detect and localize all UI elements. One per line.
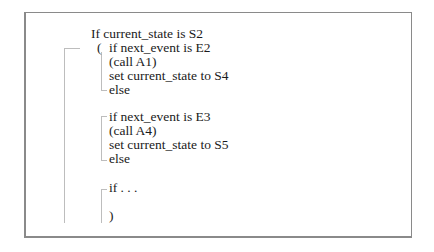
inner-bracket-2-bottom — [101, 160, 107, 161]
inner-bracket-3-vertical — [101, 189, 102, 223]
inner-bracket-2-vertical — [101, 116, 102, 161]
close-paren: ) — [109, 209, 114, 223]
else-1: else — [109, 83, 130, 97]
condition-event-e2: if next_event is E2 — [109, 41, 211, 55]
diagram-frame — [24, 12, 412, 238]
condition-ellipsis: if . . . — [109, 181, 138, 195]
condition-current-state-s2: If current_state is S2 — [91, 27, 203, 41]
outer-bracket-vertical — [64, 48, 65, 223]
action-call-a4: (call A4) — [109, 124, 157, 138]
set-state-s5: set current_state to S5 — [109, 138, 229, 152]
action-call-a1: (call A1) — [109, 55, 157, 69]
else-2: else — [109, 152, 130, 166]
inner-bracket-1-bottom — [101, 90, 107, 91]
condition-event-e3: if next_event is E3 — [109, 110, 211, 124]
set-state-s4: set current_state to S4 — [109, 69, 229, 83]
inner-bracket-1-vertical — [101, 52, 102, 91]
outer-bracket-top — [64, 48, 80, 49]
open-paren: ( — [97, 41, 102, 55]
